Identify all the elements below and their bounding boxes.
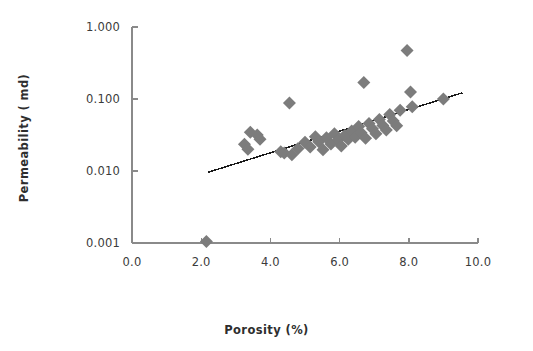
y-tick-label: 0.100 bbox=[52, 92, 120, 106]
x-tick-label: 8.0 bbox=[399, 255, 418, 269]
data-point-marker bbox=[401, 44, 414, 57]
x-tick-label: 6.0 bbox=[330, 255, 349, 269]
x-tick-label: 4.0 bbox=[261, 255, 280, 269]
x-tick-label: 2.0 bbox=[192, 255, 211, 269]
data-point-marker bbox=[200, 235, 213, 248]
data-point-marker bbox=[357, 76, 370, 89]
data-point-marker bbox=[437, 93, 450, 106]
y-tick-label: 1.000 bbox=[52, 20, 120, 34]
x-tick-label: 0.0 bbox=[123, 255, 142, 269]
x-tick-label: 10.0 bbox=[465, 255, 491, 269]
scatter-chart: 1.0000.1000.0100.0010.02.04.06.08.010.0 … bbox=[0, 0, 533, 351]
y-axis-title: Permeability ( md) bbox=[17, 53, 31, 223]
axes bbox=[132, 27, 478, 243]
data-point-marker bbox=[406, 100, 419, 113]
y-tick-label: 0.010 bbox=[52, 164, 120, 178]
x-axis-title: Porosity (%) bbox=[0, 323, 533, 337]
data-point-marker bbox=[404, 86, 417, 99]
data-point-marker bbox=[283, 96, 296, 109]
y-tick-label: 0.001 bbox=[52, 236, 120, 250]
data-points bbox=[200, 44, 450, 248]
